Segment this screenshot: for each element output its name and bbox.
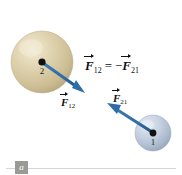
equation-relation: = (105, 58, 112, 73)
force-equation: F12=−F21 (85, 58, 139, 74)
equation-lhs-symbol: F (85, 58, 94, 74)
equation-rhs-subscript: 21 (131, 66, 139, 75)
sphere-2-label: 2 (36, 67, 48, 76)
force-vector-f21-label: F21 (113, 92, 127, 104)
panel-label-tag: a (15, 161, 28, 174)
figure-canvas (0, 0, 182, 175)
sphere-1-center-dot (150, 130, 157, 137)
f12-subscript: 12 (68, 102, 75, 110)
force-vector-f12-label: F12 (61, 96, 75, 108)
f21-subscript: 21 (120, 98, 127, 106)
sphere-2-center-dot (38, 58, 45, 65)
physics-figure: 2 1 F12=−F21 F12 F21 a (0, 0, 182, 175)
equation-rhs-symbol: F (122, 58, 131, 74)
equation-lhs-subscript: 12 (94, 66, 102, 75)
panel-divider (6, 168, 176, 169)
sphere-1-label: 1 (147, 138, 159, 147)
